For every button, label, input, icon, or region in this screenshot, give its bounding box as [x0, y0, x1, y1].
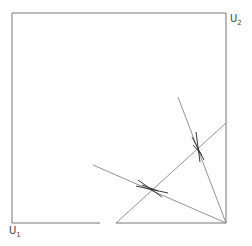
u1-label-sub: 1: [16, 231, 20, 239]
u2-axis-label: U2: [230, 13, 242, 27]
intersection-mark-lower: [136, 180, 168, 197]
u1-axis-label: U1: [9, 225, 21, 239]
shallow-ray: [93, 165, 226, 223]
u2-label-sub: 2: [237, 19, 241, 27]
diagonal-line: [116, 123, 226, 223]
diagram-canvas: [0, 0, 252, 246]
intersection-mark-upper: [192, 132, 204, 162]
